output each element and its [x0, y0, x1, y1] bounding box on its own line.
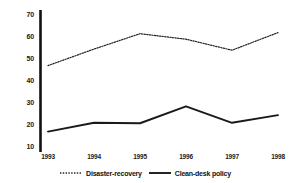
y-tick-label: 70 — [18, 11, 34, 19]
series-line-disaster-recovery — [48, 33, 278, 66]
x-tick-label: 1995 — [124, 153, 156, 161]
series-line-clean-desk-policy — [48, 106, 278, 131]
y-tick-label: 10 — [18, 143, 34, 151]
x-tick-label: 1998 — [262, 153, 291, 161]
solid-line-swatch-icon — [149, 170, 171, 176]
x-tick-label: 1996 — [170, 153, 202, 161]
line-chart-figure: 10203040506070 199319941995199619971998 … — [0, 0, 291, 183]
legend-label-clean-desk-policy: Clean-desk policy — [175, 170, 231, 177]
y-tick-label: 60 — [18, 33, 34, 41]
legend-item-clean-desk-policy: Clean-desk policy — [149, 170, 231, 177]
y-tick-label: 30 — [18, 99, 34, 107]
x-tick-label: 1994 — [78, 153, 110, 161]
y-tick-label: 50 — [18, 55, 34, 63]
legend-label-disaster-recovery: Disaster-recovery — [86, 170, 142, 177]
x-tick-label: 1993 — [32, 153, 64, 161]
chart-legend: Disaster-recovery Clean-desk policy — [0, 166, 291, 180]
y-tick-label: 40 — [18, 77, 34, 85]
x-tick-label: 1997 — [216, 153, 248, 161]
legend-item-disaster-recovery: Disaster-recovery — [60, 170, 142, 177]
dotted-line-swatch-icon — [60, 170, 82, 176]
y-tick-label: 20 — [18, 121, 34, 129]
